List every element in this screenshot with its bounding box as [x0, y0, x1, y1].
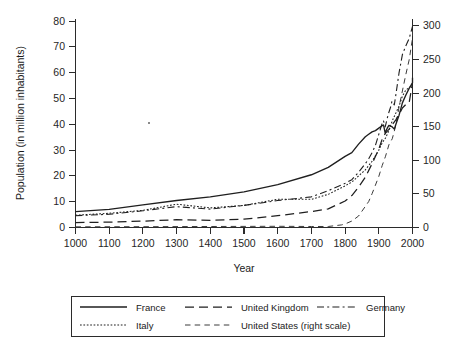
x-tick-label: 1800 [333, 237, 357, 249]
population-line-chart: 0 10 20 30 40 50 60 70 80 0 50 100 150 2… [0, 0, 457, 351]
right-tick-label: 0 [423, 221, 429, 233]
x-tick-label: 1900 [367, 237, 391, 249]
legend-label-united-states: United States (right scale) [241, 320, 350, 331]
x-axis-ticks [76, 228, 413, 235]
right-tick-label: 200 [423, 87, 441, 99]
legend-label-germany: Germany [366, 302, 405, 313]
left-tick-label: 40 [53, 118, 65, 130]
x-axis-title: Year [233, 262, 255, 274]
left-axis-tick-labels: 0 10 20 30 40 50 60 70 80 [53, 15, 65, 233]
right-tick-label: 300 [423, 19, 441, 31]
left-tick-label: 20 [53, 169, 65, 181]
legend-label-france: France [136, 302, 166, 313]
series-line-france [76, 78, 413, 212]
x-tick-label: 1000 [64, 237, 88, 249]
legend: France United Kingdom Germany Italy Unit… [72, 297, 406, 337]
series-line-united-kingdom [76, 83, 413, 223]
left-tick-label: 50 [53, 92, 65, 104]
series-line-united-states [76, 26, 413, 227]
x-tick-label: 1600 [266, 237, 290, 249]
y-axis-title: Population (in million inhabitants) [14, 46, 26, 200]
left-tick-label: 0 [59, 221, 65, 233]
right-tick-label: 250 [423, 53, 441, 65]
left-tick-label: 80 [53, 15, 65, 27]
scan-speck [148, 122, 150, 124]
series-group [76, 26, 413, 227]
right-tick-label: 150 [423, 120, 441, 132]
right-axis-tick-labels: 0 50 100 150 200 250 300 [423, 19, 441, 233]
right-tick-label: 100 [423, 154, 441, 166]
x-tick-label: 1200 [131, 237, 155, 249]
x-axis-tick-labels: 1000 1100 1200 1300 1400 1500 1600 1700 … [64, 237, 425, 249]
legend-border [72, 297, 385, 337]
series-line-italy [76, 85, 413, 215]
x-tick-label: 1500 [232, 237, 256, 249]
left-tick-label: 30 [53, 144, 65, 156]
left-tick-label: 10 [53, 195, 65, 207]
x-tick-label: 1400 [199, 237, 223, 249]
series-line-germany [76, 26, 413, 215]
x-tick-label: 1100 [98, 237, 121, 249]
right-axis-ticks [413, 26, 420, 228]
right-tick-label: 50 [423, 187, 435, 199]
x-tick-label: 2000 [401, 237, 425, 249]
x-tick-label: 1700 [300, 237, 324, 249]
left-tick-label: 70 [53, 40, 65, 52]
chart-svg: 0 10 20 30 40 50 60 70 80 0 50 100 150 2… [0, 0, 457, 351]
x-tick-label: 1300 [165, 237, 189, 249]
legend-label-united-kingdom: United Kingdom [241, 302, 309, 313]
left-axis-ticks [69, 21, 76, 227]
legend-label-italy: Italy [136, 320, 154, 331]
left-tick-label: 60 [53, 66, 65, 78]
